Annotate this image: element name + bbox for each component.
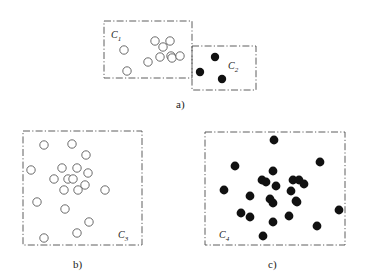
- data-point-open: [27, 166, 35, 174]
- cluster-label-subscript: 1: [118, 35, 122, 43]
- cluster-group-c3: C3: [23, 131, 142, 245]
- data-point-open: [73, 164, 81, 172]
- data-point-filled: [269, 167, 278, 176]
- data-point-filled: [272, 182, 281, 191]
- data-point-filled: [231, 162, 240, 171]
- data-point-open: [123, 67, 131, 75]
- data-point-filled: [246, 192, 255, 201]
- data-point-open: [176, 52, 184, 60]
- data-point-open: [74, 186, 82, 194]
- cluster-group-c1: C1: [104, 21, 192, 78]
- data-point-filled: [269, 218, 278, 227]
- panel-label-c: c): [268, 258, 277, 270]
- data-point-open: [68, 140, 76, 148]
- data-point-filled: [262, 178, 271, 187]
- data-point-open: [58, 164, 66, 172]
- cluster-label-subscript: 2: [235, 66, 239, 74]
- data-point-open: [168, 54, 176, 62]
- data-point-open: [82, 151, 90, 159]
- data-point-open: [60, 186, 68, 194]
- data-point-filled: [300, 180, 309, 189]
- data-point-open: [85, 218, 93, 226]
- cluster-boundary-c2: [192, 46, 256, 90]
- data-point-open: [84, 169, 92, 177]
- data-point-filled: [316, 158, 325, 167]
- data-point-filled: [220, 186, 229, 195]
- cluster-group-c4: C4: [205, 132, 345, 245]
- data-point-filled: [285, 212, 294, 221]
- data-point-filled: [335, 206, 344, 215]
- data-point-open: [61, 205, 69, 213]
- data-point-filled: [313, 222, 322, 231]
- scatter-plot-canvas: C1C2C3C4: [0, 0, 377, 280]
- cluster-label-c1: C1: [111, 29, 121, 43]
- data-point-filled: [269, 199, 278, 208]
- data-point-open: [151, 37, 159, 45]
- panel-label-a: a): [176, 98, 185, 110]
- data-point-open: [120, 46, 128, 54]
- cluster-label-subscript: 3: [124, 235, 129, 243]
- data-point-open: [40, 141, 48, 149]
- data-point-filled: [293, 198, 302, 207]
- data-point-filled: [218, 75, 226, 83]
- cluster-label-c3: C3: [118, 229, 129, 243]
- data-point-filled: [237, 209, 246, 218]
- data-point-open: [144, 58, 152, 66]
- cluster-figure: C1C2C3C4 a) b) c): [0, 0, 377, 280]
- data-point-filled: [196, 68, 204, 76]
- data-point-open: [33, 198, 41, 206]
- data-point-open: [40, 234, 48, 242]
- data-point-open: [73, 229, 81, 237]
- data-point-filled: [211, 53, 219, 61]
- data-point-open: [156, 53, 164, 61]
- data-point-open: [69, 175, 77, 183]
- panel-label-b: b): [73, 258, 82, 270]
- data-point-open: [159, 43, 167, 51]
- cluster-label-c4: C4: [219, 229, 230, 243]
- data-point-filled: [259, 232, 268, 241]
- cluster-label-c2: C2: [228, 60, 239, 74]
- data-point-open: [166, 37, 174, 45]
- data-point-filled: [246, 213, 255, 222]
- data-point-filled: [270, 136, 279, 145]
- data-point-open: [101, 186, 109, 194]
- cluster-label-subscript: 4: [226, 235, 230, 243]
- data-point-filled: [287, 187, 296, 196]
- cluster-group-c2: C2: [192, 46, 256, 90]
- data-point-open: [50, 175, 58, 183]
